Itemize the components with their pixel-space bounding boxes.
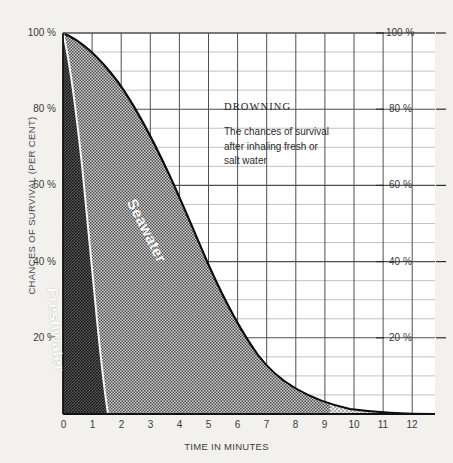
- x-tick-11: 11: [376, 419, 390, 430]
- callout-line-2: after inhaling fresh or: [224, 140, 384, 155]
- x-tick-8: 8: [291, 419, 300, 430]
- x-tick-6: 6: [233, 419, 242, 430]
- x-tick-1: 1: [88, 419, 97, 430]
- x-tick-2: 2: [117, 419, 126, 430]
- y-tick-right-80: 80 %: [389, 103, 412, 114]
- x-tick-3: 3: [146, 419, 155, 430]
- x-tick-9: 9: [320, 419, 329, 430]
- x-tick-10: 10: [347, 419, 361, 430]
- y-tick-right-40: 40 %: [389, 256, 412, 267]
- callout-heading: DROWNING: [224, 101, 384, 112]
- y-tick-right-20: 20 %: [389, 332, 412, 343]
- x-tick-12: 12: [405, 419, 419, 430]
- x-tick-4: 4: [175, 419, 184, 430]
- callout-line-1: The chances of survival: [224, 125, 384, 140]
- x-tick-7: 7: [262, 419, 271, 430]
- y-tick-right-100: 100 %: [386, 27, 414, 38]
- callout-line-3: salt water: [224, 154, 384, 169]
- y-tick-right-60: 60 %: [389, 179, 412, 190]
- x-tick-0: 0: [59, 419, 68, 430]
- x-axis-title: TIME IN MINUTES: [0, 441, 453, 452]
- x-tick-5: 5: [204, 419, 213, 430]
- y-tick-left-100: 100 %: [8, 27, 56, 38]
- drowning-survival-chart: [0, 0, 453, 463]
- y-axis-title: CHANCES OF SURVIVAL (PER CENT): [26, 96, 37, 316]
- chart-page: 100 % 80 % 60 % 40 % 20 % 100 % 80 % 60 …: [0, 0, 453, 463]
- callout-block: DROWNING The chances of survival after i…: [224, 101, 384, 169]
